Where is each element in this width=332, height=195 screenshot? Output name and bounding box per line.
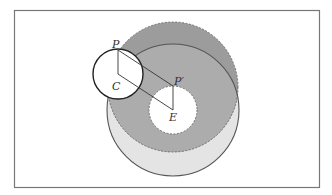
label-p-prime: P′: [173, 75, 184, 88]
diagram-canvas: P C P′ E: [0, 0, 332, 195]
label-e: E: [168, 111, 177, 124]
diagram-figure: P C P′ E: [0, 0, 332, 195]
label-c: C: [112, 80, 121, 93]
label-p: P: [111, 38, 120, 51]
